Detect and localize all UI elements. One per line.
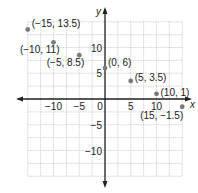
- y-tick-label: −10: [85, 146, 102, 157]
- data-point-label: (−5, 8.5): [47, 57, 85, 68]
- x-tick-label: 0: [97, 101, 103, 112]
- data-point-label: (−10, 11): [20, 44, 60, 55]
- data-point: [180, 104, 185, 109]
- data-point-label: (0, 6): [108, 57, 131, 68]
- x-axis-left-arrow-icon: [16, 97, 23, 102]
- y-axis-down-arrow-icon: [103, 181, 108, 188]
- data-point-label: (10, 1): [161, 87, 190, 98]
- x-tick-label: −5: [74, 101, 86, 112]
- y-tick-label: 10: [91, 43, 103, 54]
- x-tick-label: 5: [128, 101, 134, 112]
- y-axis-up-arrow-icon: [103, 7, 108, 14]
- scatter-chart: x y −10−50510105−5−10 (−15, 13.5)(−10, 1…: [0, 0, 198, 193]
- data-point-label: (15, −1.5): [140, 110, 183, 121]
- y-tick-label: 5: [96, 68, 102, 79]
- y-tick-label: −5: [91, 120, 103, 131]
- y-axis-label: y: [95, 6, 102, 17]
- x-tick-label: −10: [45, 101, 62, 112]
- data-point: [154, 91, 159, 96]
- data-point: [25, 27, 30, 32]
- data-point: [103, 66, 108, 71]
- data-point: [128, 79, 133, 84]
- data-point-label: (5, 3.5): [135, 72, 167, 83]
- plot-area: x y −10−50510105−5−10 (−15, 13.5)(−10, 1…: [0, 0, 198, 193]
- x-axis-label: x: [189, 99, 196, 110]
- data-point-label: (−15, 13.5): [32, 18, 81, 29]
